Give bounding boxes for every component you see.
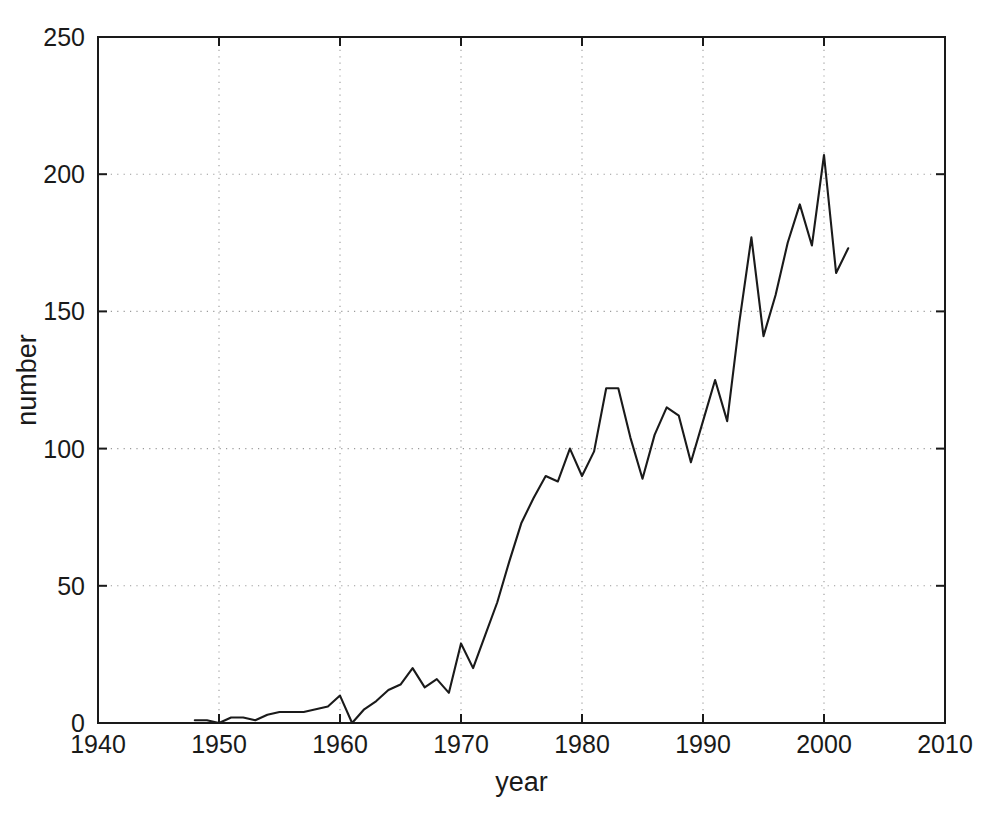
x-tick-label: 1960 (312, 730, 368, 758)
x-tick-label: 1970 (433, 730, 489, 758)
tick-marks (98, 37, 945, 723)
y-axis-title: number (12, 334, 42, 426)
y-tick-label: 150 (43, 297, 85, 325)
y-tick-labels: 050100150200250 (43, 23, 85, 737)
x-tick-label: 1950 (191, 730, 247, 758)
gridlines (98, 37, 945, 723)
y-tick-label: 200 (43, 160, 85, 188)
x-tick-label: 1980 (554, 730, 610, 758)
x-tick-label: 2000 (796, 730, 852, 758)
plot-frame (98, 37, 945, 723)
y-tick-label: 100 (43, 435, 85, 463)
y-tick-label: 250 (43, 23, 85, 51)
line-chart: 19401950196019701980199020002010 0501001… (0, 0, 991, 813)
data-series-line (195, 155, 848, 723)
series-number-polyline (195, 155, 848, 723)
axis-frame (98, 37, 945, 723)
y-tick-label: 50 (57, 572, 85, 600)
x-tick-label: 2010 (917, 730, 973, 758)
y-tick-label: 0 (71, 709, 85, 737)
x-axis-title: year (495, 767, 548, 797)
figure-container: 19401950196019701980199020002010 0501001… (0, 0, 991, 813)
x-tick-labels: 19401950196019701980199020002010 (70, 730, 973, 758)
x-tick-label: 1990 (675, 730, 731, 758)
